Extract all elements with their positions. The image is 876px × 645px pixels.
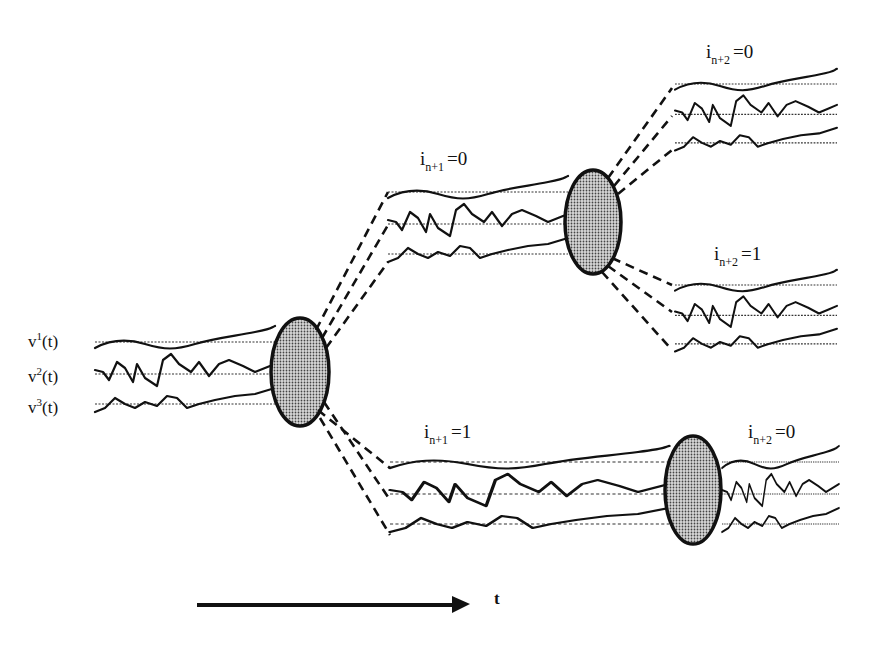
branch-label-n1-1: in+1=1 bbox=[424, 421, 471, 447]
branch-label-n1-0: in+1=0 bbox=[420, 148, 467, 174]
time-axis-label: t bbox=[494, 589, 500, 608]
signal-label-v2: v2(t) bbox=[28, 365, 58, 386]
signal-bundle-n2-0-top bbox=[675, 69, 837, 151]
branching-diagram: v1(t) v2(t) v3(t) in+1=0 in+2=0 bbox=[0, 0, 876, 645]
signal-label-v1: v1(t) bbox=[28, 330, 58, 351]
signal-bundle-n2-1 bbox=[675, 270, 837, 352]
signal-label-v3: v3(t) bbox=[28, 396, 58, 417]
time-axis-arrow bbox=[197, 596, 470, 613]
branch-label-n2-0-top: in+2=0 bbox=[706, 41, 753, 67]
signal-bundle-n1-1 bbox=[390, 446, 669, 532]
branch-label-n2-1: in+2=1 bbox=[714, 243, 761, 269]
signal-bundle-n1-0 bbox=[388, 176, 568, 262]
decision-node-n1-lower bbox=[665, 436, 721, 544]
decision-node-n bbox=[271, 318, 329, 426]
signal-bundle-n2-0-bottom bbox=[722, 446, 839, 532]
branch-label-n2-0-bottom: in+2=0 bbox=[748, 421, 795, 447]
initial-signal-bundle bbox=[95, 326, 275, 412]
